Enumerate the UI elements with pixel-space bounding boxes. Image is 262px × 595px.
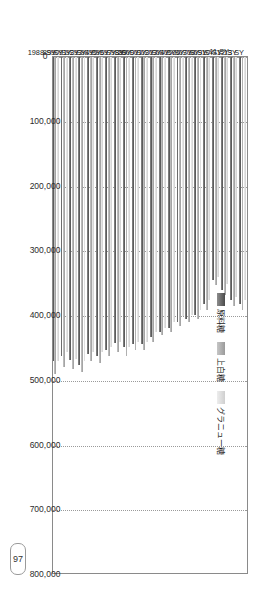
bar-0 xyxy=(191,57,193,315)
bar-2 xyxy=(221,57,223,290)
bar-row xyxy=(185,57,194,573)
bar-row xyxy=(77,57,86,573)
bar-2 xyxy=(159,57,161,332)
category-tick: 06 SY xyxy=(188,0,196,54)
bar-2 xyxy=(185,57,187,319)
category-tick: 01 SY xyxy=(150,0,158,54)
bar-row xyxy=(60,57,69,573)
bar-0 xyxy=(244,57,246,300)
bar-row xyxy=(167,57,176,573)
bar-1 xyxy=(170,57,172,332)
value-tick-label: 600,000 xyxy=(40,429,50,460)
bar-2 xyxy=(239,57,241,304)
value-tick-label: 300,000 xyxy=(40,235,50,266)
bar-0 xyxy=(155,57,157,332)
value-tick-label: 400,000 xyxy=(40,300,50,331)
bar-row xyxy=(86,57,95,573)
value-axis-ticks: 0100,000200,000300,000400,000500,000600,… xyxy=(6,56,50,574)
bar-1 xyxy=(188,57,190,322)
bar-1 xyxy=(224,57,226,295)
bar-2 xyxy=(78,57,80,365)
bar-0 xyxy=(119,57,121,342)
chart-legend: グラニュー糖上白糖原料糖 xyxy=(216,293,227,455)
bar-2 xyxy=(168,57,170,328)
legend-item: グラニュー糖 xyxy=(216,391,227,455)
bar-0 xyxy=(93,57,95,352)
category-tick: 02 SY xyxy=(158,0,166,54)
category-tick: 90 SY xyxy=(67,0,75,54)
legend-label: グラニュー糖 xyxy=(216,407,227,455)
bar-2 xyxy=(70,57,72,360)
bar-0 xyxy=(101,57,103,352)
category-tick: 05 SY xyxy=(180,0,188,54)
category-axis-ticks: 13 SY12 SY11 SY10 SY09 SY08 SY07 SY06 SY… xyxy=(52,0,248,54)
category-tick: 08 SY xyxy=(203,0,211,54)
legend-label: 原料糖 xyxy=(216,309,227,333)
bar-2 xyxy=(203,57,205,304)
legend-item: 原料糖 xyxy=(216,293,227,333)
bar-1 xyxy=(72,57,74,369)
bar-1 xyxy=(54,57,56,374)
legend-swatch xyxy=(218,391,226,404)
bar-0 xyxy=(146,57,148,342)
category-tick: 13 SY xyxy=(240,0,248,54)
bar-1 xyxy=(143,57,145,350)
bar-2 xyxy=(212,57,214,280)
bar-2 xyxy=(177,57,179,322)
bar-0 xyxy=(66,57,68,352)
bar-row xyxy=(149,57,158,573)
value-tick-label: 200,000 xyxy=(40,170,50,201)
value-tick-label: 500,000 xyxy=(40,364,50,395)
bar-2 xyxy=(141,57,143,344)
bar-2 xyxy=(194,57,196,315)
bar-2 xyxy=(114,57,116,343)
category-tick: 97 SY xyxy=(120,0,128,54)
bar-0 xyxy=(164,57,166,328)
bar-1 xyxy=(206,57,208,310)
bar-1 xyxy=(81,57,83,372)
bar-0 xyxy=(208,57,210,300)
bar-2 xyxy=(105,57,107,350)
bar-1 xyxy=(179,57,181,326)
category-tick: 96 SY xyxy=(112,0,120,54)
bar-1 xyxy=(233,57,235,306)
plot-inner: グラニュー糖上白糖原料糖 xyxy=(53,57,247,573)
bar-0 xyxy=(128,57,130,347)
legend-label: 上白糖 xyxy=(216,358,227,382)
bar-row xyxy=(113,57,122,573)
bar-1 xyxy=(117,57,119,352)
bar-row xyxy=(176,57,185,573)
bar-row xyxy=(95,57,104,573)
category-tick-label: 1988 SY xyxy=(28,48,56,57)
bar-2 xyxy=(123,57,125,347)
legend-swatch xyxy=(218,293,226,306)
category-tick: 07 SY xyxy=(195,0,203,54)
category-tick: 92 SY xyxy=(82,0,90,54)
bar-0 xyxy=(226,57,228,284)
value-tick-label: 100,000 xyxy=(40,105,50,136)
category-tick: 09 SY xyxy=(210,0,218,54)
value-tick-label: 700,000 xyxy=(40,494,50,525)
category-tick: 99 SY xyxy=(135,0,143,54)
bar-2 xyxy=(132,57,134,344)
bar-1 xyxy=(99,57,101,363)
category-tick: 03 SY xyxy=(165,0,173,54)
bar-row xyxy=(158,57,167,573)
bar-row xyxy=(140,57,149,573)
bar-1 xyxy=(242,57,244,310)
bar-row xyxy=(229,57,238,573)
bar-1 xyxy=(63,57,65,367)
bar-1 xyxy=(215,57,217,285)
bar-0 xyxy=(110,57,112,347)
bar-2 xyxy=(150,57,152,337)
bar-row xyxy=(131,57,140,573)
category-tick: 12 SY xyxy=(233,0,241,54)
bar-row xyxy=(193,57,202,573)
category-tick: 04 SY xyxy=(173,0,181,54)
category-tick: 11 SY xyxy=(225,0,233,54)
bar-row xyxy=(122,57,131,573)
bar-0 xyxy=(235,57,237,297)
bar-0 xyxy=(84,57,86,361)
bar-row xyxy=(238,57,247,573)
bar-1 xyxy=(126,57,128,356)
